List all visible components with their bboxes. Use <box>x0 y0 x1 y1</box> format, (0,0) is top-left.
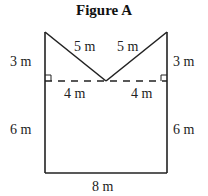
label-right-half-base: 4 m <box>131 86 153 101</box>
label-left-top: 3 m <box>10 54 32 69</box>
figure-diagram: 3 m 3 m 5 m 5 m 4 m 4 m 6 m 6 m 8 m <box>0 0 208 196</box>
label-right-slant: 5 m <box>117 39 139 54</box>
label-left-half-base: 4 m <box>64 86 86 101</box>
label-right-side: 6 m <box>173 122 195 137</box>
label-right-top: 3 m <box>173 54 195 69</box>
label-left-slant: 5 m <box>74 39 96 54</box>
shape-outline <box>45 32 167 173</box>
label-left-side: 6 m <box>10 122 32 137</box>
label-bottom: 8 m <box>92 179 114 194</box>
right-angle-mark-left <box>45 75 51 81</box>
right-angle-mark-right <box>161 75 167 81</box>
